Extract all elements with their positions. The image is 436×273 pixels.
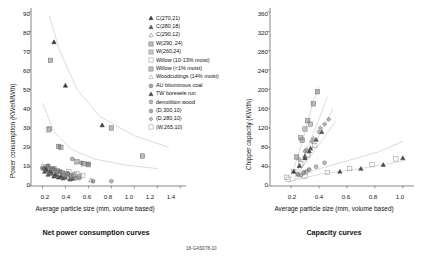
legend-item-label: C(270,21)	[156, 15, 180, 22]
data-point-square-grid	[311, 102, 315, 106]
legend-item-label: demolition wood	[156, 99, 195, 106]
data-point-square-open	[149, 125, 153, 129]
data-point-diamond-dot	[149, 117, 153, 121]
legend-item-label: Woodcuttings (14% moist)	[156, 73, 219, 80]
legend-item-label: W(290, 24)	[156, 40, 183, 47]
legend-item-label: (W,265,10)	[156, 124, 182, 131]
data-point-square-grid	[299, 135, 303, 139]
data-point-triangle-filled	[292, 169, 296, 173]
data-point-circle-dot	[80, 161, 84, 165]
data-point-square-grid	[59, 145, 63, 149]
legend-marker-icon	[148, 74, 153, 79]
legend-marker-icon	[148, 15, 153, 20]
data-point-triangle-filled	[308, 146, 312, 150]
legend: C(270,21)C(280,18)C(290,12)W(290, 24)W(2…	[148, 14, 218, 131]
data-point-circle-dot	[149, 84, 153, 88]
data-point-circle-dot	[149, 109, 153, 113]
legend-marker-icon	[148, 108, 153, 113]
fit-curve	[43, 103, 158, 169]
data-point-circle-dot	[91, 179, 95, 183]
data-point-circle-dot	[307, 168, 311, 172]
data-point-square-grid	[149, 67, 153, 71]
legend-item: demolition wood	[148, 98, 218, 106]
legend-marker-icon	[148, 32, 153, 37]
data-point-square-grid	[48, 58, 52, 62]
legend-item-label: (D,280,10)	[156, 115, 181, 122]
legend-item: W(260,24)	[148, 48, 218, 56]
data-point-triangle-open	[149, 75, 153, 79]
data-point-square-open	[286, 177, 290, 181]
data-point-triangle-filled	[52, 40, 56, 44]
legend-marker-icon	[148, 99, 153, 104]
data-point-triangle-filled	[149, 92, 153, 96]
legend-marker-icon	[148, 83, 153, 88]
data-point-square-grid	[149, 41, 153, 45]
data-point-triangle-filled	[63, 83, 67, 87]
data-point-circle-dot	[314, 165, 318, 169]
data-point-square-open	[394, 157, 398, 161]
legend-item: C(280,18)	[148, 22, 218, 30]
legend-item-label: W(260,24)	[156, 48, 181, 55]
figure-root: Power consumption (KWe/MWth) 0 10 20 30 …	[0, 0, 436, 273]
data-point-circle-dot	[70, 157, 74, 161]
data-point-circle-dot	[149, 100, 153, 104]
data-point-square-grid	[47, 127, 51, 131]
legend-marker-icon	[148, 57, 153, 62]
legend-marker-icon	[148, 91, 153, 96]
data-point-circle-dot	[68, 174, 72, 178]
legend-marker-icon	[148, 124, 153, 129]
legend-marker-icon	[148, 116, 153, 121]
legend-marker-icon	[148, 41, 153, 46]
data-point-triangle-open	[149, 33, 153, 37]
figure-footnote: 18-GAS078-10	[186, 246, 217, 251]
legend-item: C(290,12)	[148, 31, 218, 39]
data-point-circle-dot	[302, 170, 306, 174]
legend-item-label: AU bituminous coal	[156, 82, 202, 89]
data-point-circle-dot	[109, 179, 113, 183]
legend-item: W(290, 24)	[148, 39, 218, 47]
data-point-circle-dot	[323, 161, 327, 165]
data-point-circle-dot	[41, 167, 45, 171]
data-point-square-grid	[308, 122, 312, 126]
legend-item: Willow (10-13% moist)	[148, 56, 218, 64]
data-point-square-grid	[315, 90, 319, 94]
data-point-square-open	[325, 170, 329, 174]
data-point-triangle-filled	[149, 16, 153, 20]
legend-item: AU bituminous coal	[148, 81, 218, 89]
right-plot-area	[218, 0, 436, 273]
legend-item: (D,280,10)	[148, 115, 218, 123]
panel-net-power: Power consumption (KWe/MWth) 0 10 20 30 …	[0, 0, 218, 273]
data-point-square-grid	[75, 160, 79, 164]
panel-capacity: Chipper capacity (KW/th) 0 40 80 120 160…	[218, 0, 436, 273]
data-point-triangle-filled	[149, 25, 153, 29]
data-point-circle-dot	[86, 162, 90, 166]
legend-item: Woodcuttings (14% moist)	[148, 73, 218, 81]
legend-item: Willow (<1% moist)	[148, 64, 218, 72]
legend-item-label: (D,300,10)	[156, 107, 181, 114]
data-point-square-open	[149, 58, 153, 62]
legend-item-label: C(290,12)	[156, 31, 180, 38]
data-point-square-grid	[140, 154, 144, 158]
data-point-circle-dot	[60, 171, 64, 175]
data-point-triangle-filled	[100, 123, 104, 127]
data-point-square-open	[285, 175, 289, 179]
data-point-triangle-filled	[401, 156, 405, 160]
data-point-triangle-filled	[297, 164, 301, 168]
legend-marker-icon	[148, 49, 153, 54]
legend-item: (D,300,10)	[148, 106, 218, 114]
data-point-square-grid	[109, 126, 113, 130]
legend-item: (W,265,10)	[148, 123, 218, 131]
legend-marker-icon	[148, 24, 153, 29]
legend-item: C(270,21)	[148, 14, 218, 22]
legend-item: TW boresele run	[148, 90, 218, 98]
legend-item-label: C(280,18)	[156, 23, 180, 30]
legend-item-label: Willow (10-13% moist)	[156, 57, 210, 64]
data-point-circle-dot	[77, 176, 81, 180]
legend-item-label: TW boresele run	[156, 90, 196, 97]
data-point-square-grid	[149, 50, 153, 54]
data-point-square-grid	[303, 127, 307, 131]
legend-marker-icon	[148, 66, 153, 71]
data-point-circle-dot	[296, 172, 300, 176]
legend-item-label: Willow (<1% moist)	[156, 65, 202, 72]
